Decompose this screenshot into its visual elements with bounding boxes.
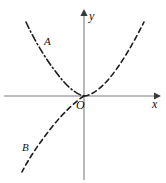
curve-b-path xyxy=(22,96,84,172)
curve-a-path xyxy=(26,22,84,96)
curve-right-branch-path xyxy=(84,22,144,96)
figure-canvas xyxy=(0,0,166,183)
y-axis-arrow-icon xyxy=(80,9,87,16)
curve-a-label: A xyxy=(44,36,51,47)
math-figure: y x O A B xyxy=(0,0,166,183)
x-axis-label: x xyxy=(152,98,157,110)
origin-label: O xyxy=(76,99,85,111)
y-axis-label: y xyxy=(89,10,94,22)
curve-b-label: B xyxy=(22,142,29,153)
